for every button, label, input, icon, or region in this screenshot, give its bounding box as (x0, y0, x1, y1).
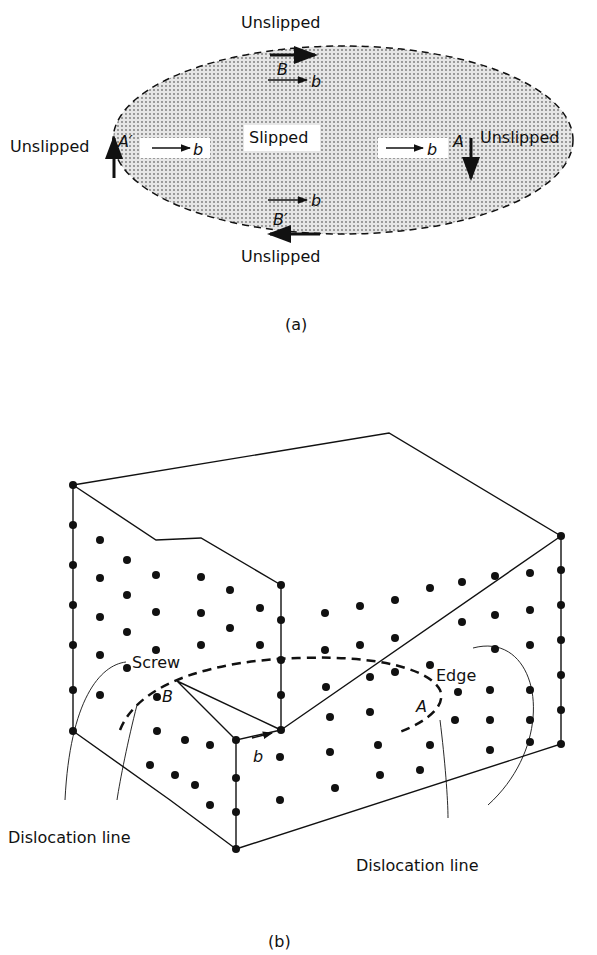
label-b: b (253, 747, 263, 766)
label-screw: Screw (132, 653, 180, 672)
label-unslipped-top: Unslipped (241, 13, 320, 32)
dislocation-loop-figure: Unslipped Unslipped Unslipped Unslipped … (0, 0, 597, 955)
label-dislocation-line-right: Dislocation line (356, 856, 479, 875)
label-slipped: Slipped (249, 128, 308, 147)
label-edge: Edge (436, 666, 476, 685)
burgers-b-top: b (311, 72, 321, 91)
caption-b: (b) (268, 932, 291, 951)
label-unslipped-right: Unslipped (480, 128, 559, 147)
point-B: B (277, 60, 288, 79)
label-A: A (415, 697, 427, 716)
burgers-b-right: b (427, 140, 437, 159)
crystal-block (73, 433, 561, 849)
caption-a: (a) (285, 315, 307, 334)
burgers-b-bottom: b (311, 191, 321, 210)
label-unslipped-bottom: Unslipped (241, 247, 320, 266)
label-B: B (162, 687, 173, 706)
label-unslipped-left: Unslipped (10, 137, 89, 156)
burgers-b-left: b (193, 140, 203, 159)
point-B-prime: B′ (273, 210, 288, 229)
point-A: A (452, 132, 464, 151)
point-A-prime: A′ (117, 132, 133, 151)
label-dislocation-line-left: Dislocation line (8, 828, 131, 847)
